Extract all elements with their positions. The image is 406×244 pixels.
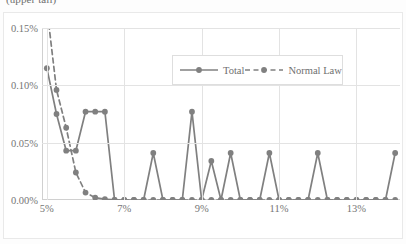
data-point-marker <box>150 197 156 200</box>
data-point-marker <box>266 197 272 200</box>
x-axis-tick-labels: 5%7%9%11%13% <box>42 203 400 221</box>
legend-entry[interactable]: Normal Law <box>244 64 341 76</box>
data-point-marker <box>189 109 195 115</box>
data-point-marker <box>305 197 311 200</box>
gridline-vertical <box>202 28 203 200</box>
legend-label: Normal Law <box>288 65 341 76</box>
chart-container: (upper tail) 0.00%0.05%0.10%0.15% 5%7%9%… <box>0 0 406 244</box>
gridline-horizontal <box>42 28 400 29</box>
data-point-marker <box>73 170 79 176</box>
data-point-marker <box>286 197 292 200</box>
plot-area <box>42 28 400 200</box>
data-point-marker <box>315 150 321 156</box>
data-point-marker <box>73 148 79 154</box>
data-point-marker <box>363 197 369 200</box>
data-point-marker <box>54 111 60 117</box>
data-point-marker <box>228 150 234 156</box>
data-point-marker <box>334 197 340 200</box>
gridline-vertical <box>47 28 48 200</box>
gridline-horizontal <box>42 143 400 144</box>
x-axis-tick-label: 7% <box>117 203 131 214</box>
data-point-marker <box>266 150 272 156</box>
x-axis-tick-label: 5% <box>40 203 54 214</box>
plot-svg <box>42 28 400 200</box>
data-point-marker <box>325 197 331 200</box>
data-point-marker <box>296 197 302 200</box>
data-point-marker <box>131 197 137 200</box>
data-point-marker <box>102 196 108 200</box>
data-point-marker <box>150 150 156 156</box>
data-point-marker <box>208 197 214 200</box>
data-point-marker <box>383 197 389 200</box>
x-axis-tick-label: 11% <box>270 203 289 214</box>
gridline-vertical <box>124 28 125 200</box>
data-point-marker <box>92 109 98 115</box>
data-point-marker <box>112 197 118 200</box>
data-point-marker <box>257 197 263 200</box>
data-point-marker <box>170 197 176 200</box>
data-point-marker <box>208 158 214 164</box>
data-point-marker <box>247 197 253 200</box>
data-point-marker <box>392 197 398 200</box>
legend-label: Total <box>223 65 244 76</box>
data-point-marker <box>141 197 147 200</box>
series-line <box>47 28 395 200</box>
data-point-marker <box>392 150 398 156</box>
series-line <box>47 68 395 200</box>
data-point-marker <box>63 125 69 131</box>
data-point-marker <box>179 197 185 200</box>
data-point-marker <box>315 197 321 200</box>
gridline-vertical <box>279 28 280 200</box>
data-point-marker <box>373 197 379 200</box>
data-point-marker <box>237 197 243 200</box>
x-axis-tick-label: 9% <box>195 203 209 214</box>
data-point-marker <box>344 197 350 200</box>
data-point-marker <box>218 197 224 200</box>
chart-legend: TotalNormal Law <box>172 55 343 85</box>
legend-swatch-dashed-line-icon <box>244 64 284 76</box>
data-point-marker <box>54 87 60 93</box>
x-axis-tick-label: 13% <box>347 203 366 214</box>
legend-entry[interactable]: Total <box>179 64 244 76</box>
data-point-marker <box>228 197 234 200</box>
data-point-marker <box>63 148 69 154</box>
chart-title: (upper tail) <box>6 0 56 5</box>
gridline-horizontal <box>42 85 400 86</box>
gridline-vertical <box>356 28 357 200</box>
series-normal-law <box>44 28 398 200</box>
legend-swatch-solid-line-icon <box>179 64 219 76</box>
data-point-marker <box>102 109 108 115</box>
data-point-marker <box>83 109 89 115</box>
data-point-marker <box>92 195 98 200</box>
data-point-marker <box>189 197 195 200</box>
data-point-marker <box>160 197 166 200</box>
data-point-marker <box>83 190 89 196</box>
